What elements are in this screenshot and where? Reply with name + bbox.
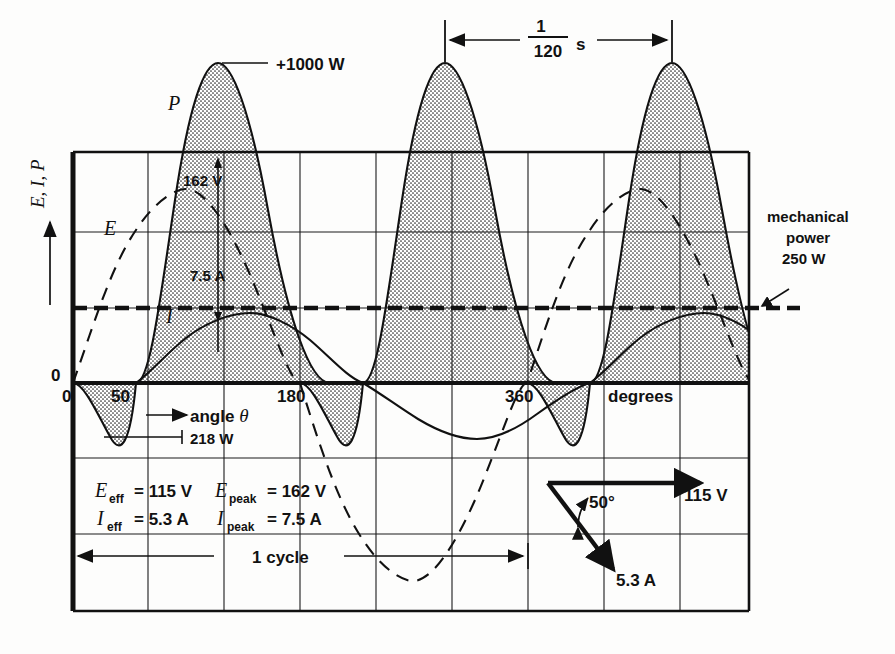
label-period-numerator: 1	[536, 17, 545, 36]
leader-mechanical-power	[762, 289, 789, 306]
label-mechanical-power-1: mechanical	[767, 208, 849, 225]
label-curve-I: I	[165, 305, 174, 327]
legend-sym-Ieff: I	[96, 507, 105, 529]
label-negative-power: 218 W	[190, 430, 234, 447]
legend-sub-peak-2: peak	[227, 520, 255, 534]
figure-root: +1000 W P E I 162 V 7.5 A 218 W 0 50 180…	[0, 0, 895, 654]
label-peak-power: +1000 W	[276, 55, 345, 74]
xtick-180: 180	[277, 387, 305, 406]
ac-power-diagram: +1000 W P E I 162 V 7.5 A 218 W 0 50 180…	[0, 0, 895, 654]
label-peak-current: 7.5 A	[190, 267, 225, 284]
legend-eq-Epeak: = 162 V	[267, 482, 327, 501]
legend-sym-Eeff: E	[94, 479, 107, 501]
y-axis-label: E, I, P	[27, 159, 48, 209]
phasor-diagram	[548, 483, 700, 569]
label-phasor-angle: 50°	[589, 493, 615, 512]
xtick-0: 0	[62, 387, 71, 406]
label-curve-P: P	[167, 92, 180, 114]
legend-sub-eff-1: eff	[109, 492, 125, 506]
legend-eq-Ieff: = 5.3 A	[134, 510, 189, 529]
label-phasor-voltage: 115 V	[684, 486, 728, 505]
label-mechanical-power-3: 250 W	[782, 250, 826, 267]
label-cycle: 1 cycle	[252, 548, 309, 567]
label-period-denominator: 120	[534, 42, 562, 61]
legend-sub-peak-1: peak	[229, 492, 257, 506]
label-peak-voltage: 162 V	[183, 172, 222, 189]
legend-sub-eff-2: eff	[107, 520, 123, 534]
xaxis-units-label: degrees	[608, 387, 673, 406]
legend-sym-Ipeak: I	[216, 507, 225, 529]
legend-sym-Epeak: E	[214, 479, 227, 501]
label-period-unit: s	[576, 35, 585, 54]
power-lobe-positive-3	[590, 63, 775, 383]
xtick-50: 50	[111, 387, 130, 406]
label-mechanical-power-2: power	[786, 229, 830, 246]
legend-eq-Ipeak: = 7.5 A	[267, 510, 322, 529]
xtick-360: 360	[505, 387, 533, 406]
ytick-zero: 0	[51, 366, 60, 385]
legend-eq-Eeff: = 115 V	[134, 482, 193, 501]
label-curve-E: E	[103, 217, 116, 239]
power-lobe-positive-1	[136, 63, 330, 383]
label-phasor-current: 5.3 A	[616, 571, 656, 590]
legend-values-block: E eff = 115 V E peak = 162 V I eff = 5.3…	[94, 479, 327, 534]
label-angle-theta: angle θ	[190, 405, 248, 426]
